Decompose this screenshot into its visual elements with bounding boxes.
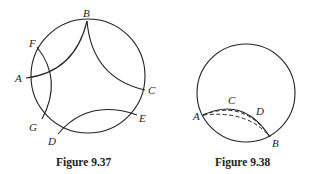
- point-label-b: B: [83, 7, 90, 19]
- point-label-f: F: [28, 37, 36, 49]
- point-label-a: A: [14, 72, 22, 84]
- arc-f-g: [37, 47, 51, 119]
- arc-b-c: [87, 21, 145, 90]
- disk-boundary: [31, 19, 145, 133]
- point-label-d: D: [255, 105, 264, 117]
- diagram-canvas: B F A G D E C Figure 9.37 C D A B Figure…: [0, 0, 312, 174]
- point-label-a: A: [192, 110, 200, 122]
- point-label-c: C: [148, 84, 156, 96]
- figure-9-38: C D A B Figure 9.38: [192, 44, 295, 169]
- point-label-e: E: [138, 112, 146, 124]
- point-label-d: D: [47, 135, 56, 147]
- arc-a-b-dashed-2: [203, 114, 270, 137]
- arc-a-b: [26, 21, 87, 78]
- point-label-g: G: [29, 121, 37, 133]
- point-label-c: C: [228, 94, 236, 106]
- figure-caption: Figure 9.38: [215, 156, 271, 169]
- figure-caption: Figure 9.37: [56, 156, 112, 169]
- disk-boundary: [197, 44, 295, 142]
- point-label-b: B: [272, 137, 279, 149]
- figure-9-37: B F A G D E C Figure 9.37: [14, 7, 156, 169]
